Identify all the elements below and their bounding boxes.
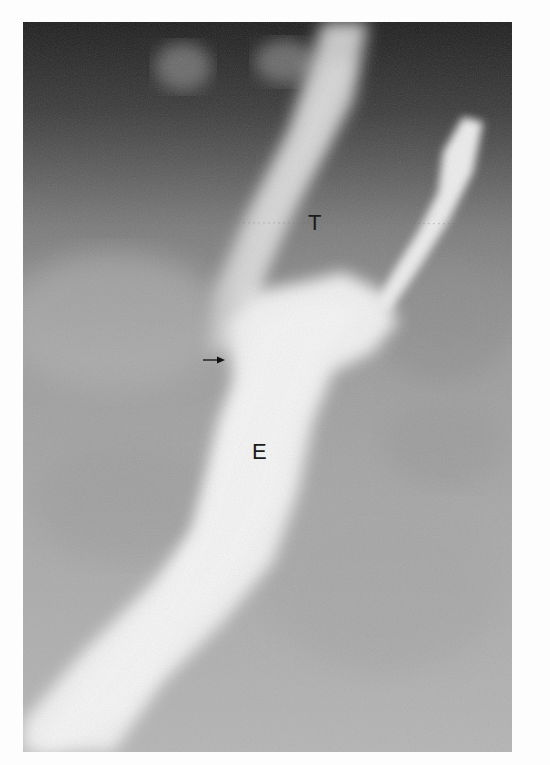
esophagus-label: E	[252, 441, 267, 463]
radiograph-image: T E	[23, 22, 512, 752]
trachea-label: T	[308, 212, 321, 234]
xray-rendering	[23, 22, 512, 752]
arrow-right-icon	[203, 356, 225, 364]
